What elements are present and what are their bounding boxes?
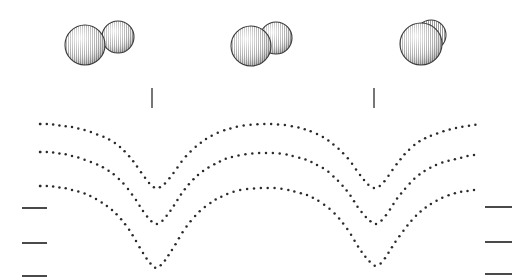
curve-dot [418,173,421,176]
curve-dot [430,203,433,206]
curve-dot [231,156,234,159]
curve-dot [441,161,444,164]
vertical-ticks-group [152,88,374,108]
curve-dot [284,124,287,127]
curve-dot [167,254,170,257]
curve-dot [108,138,111,141]
curve-dot [429,167,432,170]
curve-dot [310,161,313,164]
curve-dot [454,158,457,161]
curve-upper [39,123,477,190]
curve-dot [300,192,303,195]
curve-dot [219,160,222,163]
curve-dot [140,171,143,174]
curve-dot [328,208,331,211]
curve-dot [249,123,252,126]
curve-dot [135,199,138,202]
curve-dot [474,124,477,127]
curve-dot [316,164,319,167]
curve-dot [391,169,394,172]
curve-dot [256,123,259,126]
curve-dot [217,132,220,135]
curve-dot [327,171,330,174]
curve-dot [353,200,356,203]
curve-dot [174,243,177,246]
curve-dot [213,163,216,166]
curve-dot [200,141,203,144]
curve-dot [473,189,476,192]
curve-dot [138,204,141,207]
curve-dot [184,188,187,191]
curve-dot [64,125,67,128]
curve-dot [46,151,49,154]
curve-dot [145,257,148,260]
curve-dot [345,189,348,192]
curve-dot [119,146,122,149]
curve-dot [389,208,392,211]
curve-dot [52,151,55,154]
curve-dot [90,131,93,134]
curve-dot [258,152,261,155]
curve-dot [237,154,240,157]
curve-dot [96,163,99,166]
curve-dot [214,198,217,201]
curve-dot [171,249,174,252]
curve-dot [176,166,179,169]
curve-dot [90,161,93,164]
curve-dot [466,190,469,193]
curve-dot [357,245,360,248]
curve-dot [226,193,229,196]
curve-dot [351,163,354,166]
curve-dot [356,205,359,208]
curve-dot [58,186,61,189]
curve-dot [39,185,42,188]
curve-dot [424,137,427,140]
curve-dot [89,195,92,198]
curve-dot [168,177,171,180]
curve-dot [180,160,183,163]
curve-dot [251,152,254,155]
curve-dot [52,185,55,188]
curve-dot [441,197,444,200]
curve-dot [399,158,402,161]
curve-dot [396,197,399,200]
left-axis-ticks-group [22,208,47,276]
curve-dot [132,160,135,163]
curve-dot [194,146,197,149]
curve-dot [242,124,245,127]
curve-dot [332,175,335,178]
curve-dot [232,190,235,193]
curve-dot [337,180,340,183]
curve-dot [142,210,145,213]
curve-dot [115,213,118,216]
curve-dot [466,155,469,158]
curve-dot [173,204,176,207]
curve-dot [239,189,242,192]
curve-dot [287,189,290,192]
molecule-pair-middle [231,22,292,66]
curve-dot [120,218,123,221]
curve-dot [112,173,115,176]
curve-dot [202,170,205,173]
curve-dot [392,203,395,206]
curve-dot [136,165,139,168]
curve-dot [138,246,141,249]
curve-dot [342,222,345,225]
curve-dot [410,219,413,222]
curve-dot [39,123,42,126]
curve-dot [107,169,110,172]
curve-dot [192,178,195,181]
curve-dot [448,128,451,131]
curve-dot [128,228,131,231]
curve-dot [423,170,426,173]
curve-middle [39,151,476,226]
curve-dot [265,152,268,155]
curve-dot [291,125,294,128]
curve-dot [111,209,114,212]
curve-dot [413,144,416,147]
curve-dot [135,240,138,243]
curve-dot [153,186,156,189]
curve-dot [391,246,394,249]
curve-dot [418,140,421,143]
curve-dot [123,150,126,153]
